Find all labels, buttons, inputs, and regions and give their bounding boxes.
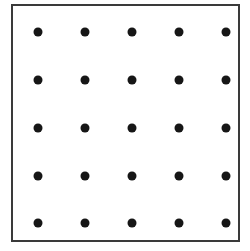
dot-grid-border bbox=[11, 4, 240, 242]
grid-dot bbox=[222, 76, 231, 85]
grid-dot bbox=[81, 28, 90, 37]
grid-dot bbox=[175, 28, 184, 37]
grid-dot bbox=[34, 124, 43, 133]
grid-dot bbox=[222, 28, 231, 37]
grid-dot bbox=[128, 219, 137, 228]
grid-dot bbox=[175, 219, 184, 228]
grid-dot bbox=[128, 172, 137, 181]
grid-dot bbox=[222, 219, 231, 228]
grid-dot bbox=[222, 124, 231, 133]
grid-dot bbox=[81, 219, 90, 228]
grid-dot bbox=[175, 124, 184, 133]
grid-dot bbox=[34, 219, 43, 228]
grid-dot bbox=[128, 76, 137, 85]
grid-dot bbox=[222, 172, 231, 181]
grid-dot bbox=[34, 28, 43, 37]
figure-canvas bbox=[0, 0, 250, 251]
grid-dot bbox=[175, 172, 184, 181]
grid-dot bbox=[175, 76, 184, 85]
grid-dot bbox=[81, 124, 90, 133]
grid-dot bbox=[128, 124, 137, 133]
grid-dot bbox=[81, 76, 90, 85]
grid-dot bbox=[34, 76, 43, 85]
grid-dot bbox=[128, 28, 137, 37]
dot-grid-plot-area bbox=[13, 6, 238, 240]
grid-dot bbox=[81, 172, 90, 181]
grid-dot bbox=[34, 172, 43, 181]
